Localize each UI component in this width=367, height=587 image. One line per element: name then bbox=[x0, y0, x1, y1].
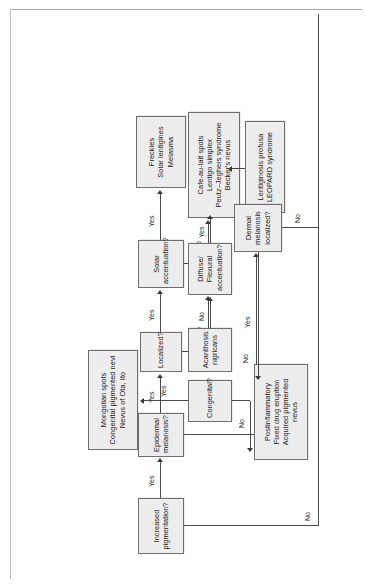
edge-congenital-no-stem bbox=[232, 400, 250, 401]
edge-dermal-no-stem bbox=[282, 227, 318, 228]
arrowhead-congenital-no bbox=[247, 448, 253, 452]
edge-label-increased-yes: Yes bbox=[148, 475, 156, 486]
node-line: Freckles bbox=[147, 120, 156, 184]
node-line: nigricans bbox=[210, 332, 219, 368]
edge-congenital-yes-stem bbox=[144, 400, 188, 401]
node-line: accentuation? bbox=[214, 247, 223, 291]
node-mongolian-group: Mongolian spots Congenital pigmented nev… bbox=[88, 350, 138, 450]
arrowhead-localized-to-solar bbox=[157, 290, 163, 294]
arrowhead-congenital-yes bbox=[140, 398, 144, 404]
node-line: Epidermal bbox=[151, 417, 160, 453]
node-line: Acquired pigmented bbox=[281, 368, 290, 456]
edge-diffuse-yes-rail bbox=[210, 219, 211, 243]
edge-label-dermal-no: No bbox=[294, 214, 302, 223]
node-dermal-melanosis-localized: Dermal melanosis localized? bbox=[234, 204, 282, 252]
edge-label-diffuse-yes: Yes bbox=[198, 226, 206, 237]
node-epidermal-melanosis: Epidermal melanosis? bbox=[138, 413, 184, 457]
node-diffuse-flexural-accentuation: Diffuse/ Flexural accentuation? bbox=[188, 243, 232, 295]
node-line: Mongolian spots bbox=[99, 354, 108, 446]
edge-label-epidermal-no: No bbox=[242, 354, 250, 363]
node-acanthosis-nigricans: Acanthosis nigricans bbox=[188, 328, 232, 372]
node-line: Melasma bbox=[165, 120, 174, 184]
node-line: accentuation? bbox=[161, 244, 170, 284]
node-line: pigmentation? bbox=[161, 502, 170, 550]
node-line: Peutz–Jeghers syndrome bbox=[214, 116, 223, 214]
edge-solar-yes bbox=[160, 194, 161, 240]
edge-increased-no-rail bbox=[318, 14, 319, 526]
edge-label-localized-yes: Yes bbox=[148, 309, 156, 320]
edge-label-congenital-yes: Yes bbox=[160, 385, 168, 396]
node-line: Solar lentigines bbox=[156, 120, 165, 184]
node-solar-accentuation: Solar accentuation? bbox=[138, 240, 184, 288]
edge-label-diffuse-no: No bbox=[198, 312, 206, 321]
node-line: Cafe-au-lait spots bbox=[195, 116, 204, 214]
node-line: Congenital pigmented nevi bbox=[108, 354, 117, 446]
node-line: localized? bbox=[262, 208, 271, 248]
node-line: Lentigo simplex bbox=[204, 116, 213, 214]
node-line: melanosis bbox=[253, 208, 262, 248]
flowchart-canvas: Increased pigmentation? Yes No Epidermal… bbox=[10, 8, 350, 568]
arrowhead-solar-yes bbox=[157, 190, 163, 194]
edge-diffuse-to-lentiginosis-v bbox=[232, 168, 245, 169]
node-line: Diffuse/ bbox=[196, 247, 205, 291]
flowchart-rotated-wrapper: Increased pigmentation? Yes No Epidermal… bbox=[10, 8, 350, 568]
node-line: melanosis? bbox=[161, 417, 170, 453]
edge-label-solar-yes: Yes bbox=[148, 215, 156, 226]
node-line: nevus bbox=[290, 368, 299, 456]
node-line: Dermal bbox=[244, 208, 253, 248]
edge-label-congenital-no: No bbox=[238, 419, 246, 428]
node-line: Flexural bbox=[205, 247, 214, 291]
edge-localized-to-solar bbox=[160, 294, 161, 332]
node-lentiginosis-group: Lentiginosis profusa LEOPARD syndrome bbox=[245, 121, 285, 213]
edge-label-dermal-yes: Yes bbox=[244, 316, 252, 327]
node-line: Acanthosis bbox=[200, 332, 209, 368]
node-line: Becker's nevus bbox=[223, 116, 232, 214]
node-cafe-au-lait-group: Cafe-au-lait spots Lentigo simplex Peutz… bbox=[188, 112, 240, 218]
edge-congenital-no-rail bbox=[250, 401, 251, 448]
arrowhead-diffuse-to-acanthosis bbox=[207, 297, 213, 301]
edge-increased-to-epidermal bbox=[160, 462, 161, 498]
node-line: Solar bbox=[151, 244, 160, 284]
edge-increased-no-stem bbox=[184, 525, 318, 526]
edge-dermal-yes bbox=[258, 252, 259, 376]
node-increased-pigmentation: Increased pigmentation? bbox=[138, 498, 184, 554]
edge-label-increased-no: No bbox=[304, 512, 312, 521]
arrowhead-diffuse-yes bbox=[207, 215, 213, 219]
node-line: Lentiginosis profusa bbox=[255, 125, 264, 209]
edge-diffuse-to-acanthosis bbox=[210, 301, 211, 328]
edge-epidermal-no-stem bbox=[184, 434, 256, 435]
node-line: Nevus of Ota, Ito bbox=[117, 354, 126, 446]
node-postinflammatory-group: Postinflammatory Fixed drug eruption Acq… bbox=[254, 364, 308, 460]
arrowhead-epidermal-to-localized bbox=[157, 374, 163, 378]
node-line: Congenital? bbox=[205, 384, 214, 418]
node-localized: Localized? bbox=[140, 332, 182, 372]
node-line: Fixed drug eruption bbox=[271, 368, 280, 456]
arrowhead-increased-to-epidermal bbox=[157, 458, 163, 462]
arrowhead-dermal-yes bbox=[255, 376, 261, 380]
node-freckles-group: Freckles Solar lentigines Melasma bbox=[136, 116, 186, 188]
arrowhead-diffuse-to-lentiginosis bbox=[228, 166, 232, 172]
node-line: Increased bbox=[151, 502, 160, 550]
node-line: LEOPARD syndrome bbox=[265, 125, 274, 209]
node-line: Postinflammatory bbox=[262, 368, 271, 456]
node-line: Localized? bbox=[156, 336, 165, 368]
node-congenital: Congenital? bbox=[188, 380, 232, 422]
